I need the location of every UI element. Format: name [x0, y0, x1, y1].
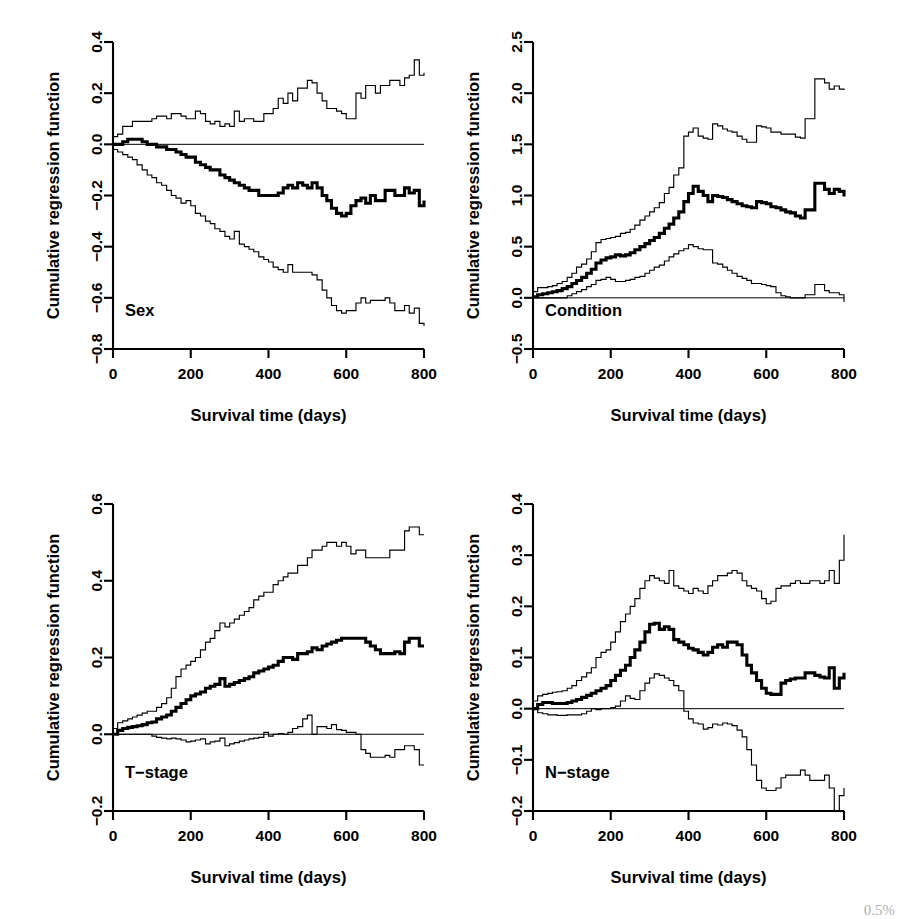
- x-tick-label: 600: [753, 827, 779, 844]
- x-tick-label: 600: [333, 827, 359, 844]
- y-tick-label: 0.1: [508, 646, 525, 668]
- confidence-band-curve: [113, 715, 424, 765]
- y-axis-title: Cumulative regression function: [464, 72, 482, 320]
- y-tick-label: 0.2: [508, 596, 525, 618]
- y-tick-label: 0.0: [508, 287, 525, 309]
- y-axis-title: Cumulative regression function: [464, 534, 482, 782]
- y-tick-label: 0.4: [88, 570, 105, 592]
- y-tick-label: −0.2: [508, 796, 525, 827]
- y-tick-label: 0.3: [508, 544, 525, 566]
- x-tick-label: 800: [831, 365, 857, 382]
- y-tick-label: 0.0: [508, 698, 525, 720]
- y-tick-label: 0.0: [88, 723, 105, 745]
- x-tick-label: 200: [598, 365, 624, 382]
- panel-tag-label: N−stage: [545, 763, 610, 781]
- estimate-curve: [113, 139, 424, 216]
- caption-fragment: 0.5%: [0, 902, 903, 919]
- panel-t-stage-svg: −0.20.00.20.40.60200400600800T−stageCumu…: [0, 462, 460, 902]
- x-tick-label: 0: [529, 365, 538, 382]
- x-tick-label: 600: [333, 365, 359, 382]
- caption-strip: 0.5%: [0, 902, 903, 919]
- y-tick-label: −0.2: [88, 180, 105, 211]
- x-axis-title: Survival time (days): [191, 868, 347, 886]
- y-tick-label: −0.5: [508, 333, 525, 364]
- y-tick-label: 0.2: [88, 647, 105, 669]
- panel-tag-label: T−stage: [125, 763, 188, 781]
- confidence-band-curve: [113, 527, 424, 728]
- x-axis-title: Survival time (days): [611, 868, 767, 886]
- confidence-band-curve: [533, 535, 844, 701]
- panel-condition: −0.50.00.51.01.52.02.50200400600800Condi…: [443, 0, 903, 440]
- panel-t-stage: −0.20.00.20.40.60200400600800T−stageCumu…: [0, 462, 460, 902]
- y-tick-label: 0.6: [88, 493, 105, 515]
- y-tick-label: −0.6: [88, 282, 105, 313]
- y-tick-label: −0.8: [88, 333, 105, 364]
- x-tick-label: 800: [411, 365, 437, 382]
- estimate-curve: [533, 623, 844, 708]
- y-tick-label: 0.4: [88, 31, 105, 53]
- y-tick-label: 2.0: [508, 82, 525, 104]
- y-tick-label: −0.2: [88, 796, 105, 827]
- panel-t-stage-axes: −0.20.00.20.40.60200400600800T−stageCumu…: [44, 493, 437, 886]
- x-tick-label: 200: [178, 827, 204, 844]
- confidence-band-curve: [533, 674, 844, 811]
- x-tick-label: 400: [676, 365, 702, 382]
- panel-tag-label: Sex: [125, 301, 155, 319]
- panel-condition-axes: −0.50.00.51.01.52.02.50200400600800Condi…: [464, 31, 857, 424]
- y-tick-label: 1.0: [508, 185, 525, 207]
- y-tick-label: 0.5: [508, 236, 525, 258]
- x-tick-label: 0: [109, 365, 118, 382]
- confidence-band-curve: [113, 149, 424, 326]
- y-axis-title: Cumulative regression function: [44, 534, 62, 782]
- x-axis-title: Survival time (days): [611, 406, 767, 424]
- y-tick-label: −0.4: [88, 231, 105, 262]
- panel-sex-svg: −0.8−0.6−0.4−0.20.00.20.40200400600800Se…: [0, 0, 460, 440]
- panel-sex-axes: −0.8−0.6−0.4−0.20.00.20.40200400600800Se…: [44, 31, 437, 424]
- panel-sex: −0.8−0.6−0.4−0.20.00.20.40200400600800Se…: [0, 0, 460, 440]
- y-tick-label: 2.5: [508, 31, 525, 53]
- confidence-band-curve: [113, 60, 424, 137]
- confidence-band-curve: [533, 245, 844, 302]
- figure-root: −0.8−0.6−0.4−0.20.00.20.40200400600800Se…: [0, 0, 903, 919]
- y-tick-label: 0.2: [88, 82, 105, 104]
- x-tick-label: 0: [109, 827, 118, 844]
- confidence-band-curve: [533, 79, 844, 292]
- y-tick-label: 0.4: [508, 493, 525, 515]
- y-tick-label: −0.1: [508, 744, 525, 775]
- panel-tag-label: Condition: [545, 301, 622, 319]
- y-tick-label: 1.5: [508, 133, 525, 155]
- x-tick-label: 400: [676, 827, 702, 844]
- x-tick-label: 200: [598, 827, 624, 844]
- panel-condition-svg: −0.50.00.51.01.52.02.50200400600800Condi…: [443, 0, 903, 440]
- estimate-curve: [113, 638, 424, 734]
- x-axis-title: Survival time (days): [191, 406, 347, 424]
- y-axis-title: Cumulative regression function: [44, 72, 62, 320]
- x-tick-label: 600: [753, 365, 779, 382]
- panel-n-stage-svg: −0.2−0.10.00.10.20.30.40200400600800N−st…: [443, 462, 903, 902]
- x-tick-label: 400: [256, 827, 282, 844]
- x-tick-label: 800: [831, 827, 857, 844]
- x-tick-label: 400: [256, 365, 282, 382]
- estimate-curve: [533, 183, 844, 297]
- x-tick-label: 200: [178, 365, 204, 382]
- x-tick-label: 800: [411, 827, 437, 844]
- x-tick-label: 0: [529, 827, 538, 844]
- panel-n-stage-axes: −0.2−0.10.00.10.20.30.40200400600800N−st…: [464, 493, 857, 886]
- y-tick-label: 0.0: [88, 134, 105, 156]
- panel-n-stage: −0.2−0.10.00.10.20.30.40200400600800N−st…: [443, 462, 903, 902]
